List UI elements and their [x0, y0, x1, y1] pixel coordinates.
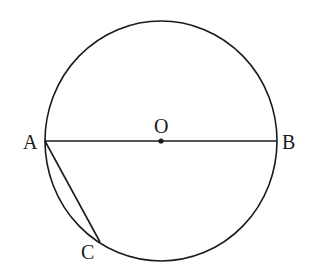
chord-ac [45, 141, 100, 242]
label-o: O [154, 115, 168, 137]
center-point-o [158, 138, 163, 143]
label-c: C [81, 241, 94, 263]
label-b: B [282, 131, 295, 153]
geometry-diagram: A B O C [0, 0, 313, 276]
label-a: A [23, 131, 38, 153]
